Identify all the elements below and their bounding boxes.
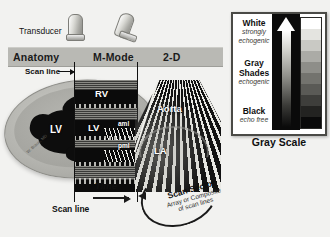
gray-scale-step-8 xyxy=(301,106,321,117)
anatomy-label-lv: LV xyxy=(50,124,62,135)
time-arrow-icon xyxy=(93,197,129,199)
gray-scale-arrow-shaft xyxy=(282,30,291,127)
m-mode-label-rv: RV xyxy=(95,88,108,99)
gray-scale-legend-text: White strongly echogenic Gray Shades ech… xyxy=(233,14,275,130)
transducer-label: Transducer xyxy=(19,26,62,36)
gray-scale-white-description: strongly echogenic xyxy=(233,28,275,45)
scan-sector-arrow-head-icon xyxy=(138,192,146,200)
m-mode-label-aml: aml xyxy=(118,120,129,127)
panel-title-anatomy: Anatomy xyxy=(13,50,59,64)
gray-scale-gradient-arrow-icon xyxy=(277,17,295,127)
panel-title-2d: 2-D xyxy=(163,50,181,64)
scan-line-top-label: Scan line xyxy=(25,67,60,76)
gray-scale-arrow-head-icon xyxy=(277,17,295,31)
two-d-transducer-foot-icon xyxy=(118,30,137,43)
m-mode-label-pml: pml xyxy=(118,142,130,149)
gray-scale-black-name: Black xyxy=(233,106,275,116)
gray-scale-step-bar xyxy=(300,17,322,129)
gray-scale-gray-name-line2: Shades xyxy=(233,68,275,78)
time-axis-label: Time xyxy=(95,180,117,191)
gray-scale-step-9 xyxy=(301,117,321,128)
panel-title-m-mode: M-Mode xyxy=(93,50,134,64)
gray-scale-black-description: echo free xyxy=(233,116,275,125)
m-mode-tissue-band xyxy=(74,108,138,120)
gray-scale-step-5 xyxy=(301,73,321,84)
gray-scale-step-1 xyxy=(301,29,321,40)
m-mode-label-lv: LV xyxy=(88,122,99,133)
gray-scale-level-black: Black echo free xyxy=(233,106,275,125)
gray-scale-step-4 xyxy=(301,62,321,73)
m-mode-transducer-foot-icon xyxy=(66,34,85,41)
gray-scale-caption: Gray Scale xyxy=(236,136,322,148)
figure-root: Transducer Anatomy M-Mode 2-D Scan line … xyxy=(0,0,330,237)
gray-scale-step-7 xyxy=(301,95,321,106)
gray-scale-step-0 xyxy=(301,18,321,29)
gray-scale-level-gray: Gray Shades echogenic xyxy=(233,58,275,87)
gray-scale-white-name: White xyxy=(233,18,275,28)
scan-line-left xyxy=(74,62,75,202)
scan-line-arrow-icon xyxy=(58,71,74,72)
two-d-label-aorta: Aorta xyxy=(157,103,182,114)
gray-scale-step-2 xyxy=(301,40,321,51)
m-mode-anterior-leaflet-trace xyxy=(104,128,138,140)
m-mode-posterior-leaflet-trace xyxy=(104,150,138,162)
two-d-label-la: LA xyxy=(154,145,167,156)
scan-line-bottom-label: Scan line xyxy=(52,204,89,214)
gray-scale-level-white: White strongly echogenic xyxy=(233,18,275,45)
gray-scale-gray-name-line1: Gray xyxy=(233,58,275,68)
gray-scale-step-6 xyxy=(301,84,321,95)
gray-scale-gray-description: echogenic xyxy=(233,78,275,87)
gray-scale-step-3 xyxy=(301,51,321,62)
